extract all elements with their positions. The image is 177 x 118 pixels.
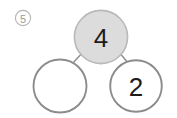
problem-number-badge: 5: [15, 10, 30, 25]
part-right-value: 2: [129, 72, 143, 102]
number-bond-diagram: 5 2 4: [0, 0, 177, 118]
total-value: 4: [94, 23, 108, 53]
part-right-node[interactable]: 2: [110, 60, 162, 112]
number-bond-worksheet-item: 5 2 4: [0, 0, 177, 118]
total-node[interactable]: 4: [74, 10, 127, 63]
problem-number-text: 5: [20, 13, 26, 25]
part-left-circle[interactable]: [34, 60, 87, 113]
part-left-node[interactable]: [34, 60, 87, 113]
